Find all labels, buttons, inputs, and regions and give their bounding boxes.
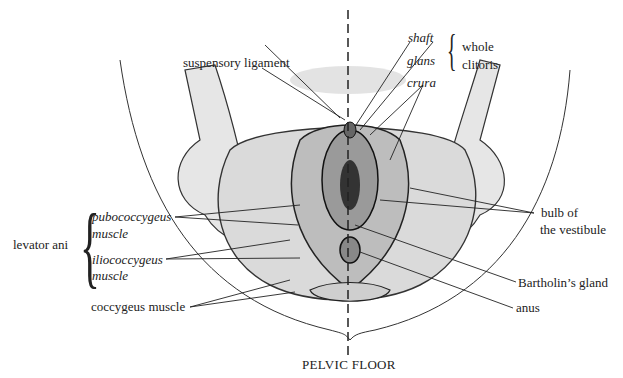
label-whole: whole <box>462 39 494 55</box>
diagram-title: PELVIC FLOOR <box>302 357 396 373</box>
label-bulb-of: bulb of <box>541 205 578 221</box>
label-pubococcygeus: pubococcygeus <box>92 209 171 225</box>
label-the-vestibule: the vestibule <box>540 222 606 238</box>
label-levator-ani: levator ani <box>13 237 68 253</box>
pelvic-floor-diagram: suspensory ligament shaft glans crura { … <box>0 0 623 378</box>
label-iliococcygeus-muscle: muscle <box>92 268 128 284</box>
anatomy-illustration <box>0 0 623 378</box>
label-clitoris: clitoris <box>462 57 498 73</box>
label-shaft: shaft <box>408 30 433 46</box>
label-anus: anus <box>516 300 540 316</box>
label-pubococcygeus-muscle: muscle <box>92 226 128 242</box>
label-bartholins-gland: Bartholin’s gland <box>518 275 608 291</box>
label-crura: crura <box>407 75 436 91</box>
label-suspensory-ligament: suspensory ligament <box>183 55 290 71</box>
brace-whole-clitoris: { <box>447 29 457 73</box>
label-glans: glans <box>407 53 435 69</box>
label-coccygeus-muscle: coccygeus muscle <box>91 299 185 315</box>
label-iliococcygeus: iliococcygeus <box>92 252 163 268</box>
